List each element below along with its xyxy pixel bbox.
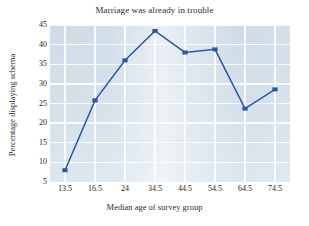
chart-title: Marriage was already in trouble xyxy=(0,5,309,15)
data-point-marker xyxy=(92,98,97,102)
y-axis-label: Percentage displaying schema xyxy=(7,25,17,185)
y-axis-tick-label: 15 xyxy=(25,138,47,147)
data-point-marker xyxy=(152,29,157,33)
data-point-marker xyxy=(62,168,67,172)
y-axis-tick-label: 40 xyxy=(25,40,47,49)
series-markers xyxy=(62,29,277,172)
y-axis-tick-label: 25 xyxy=(25,99,47,108)
y-axis-tick-label: 10 xyxy=(25,157,47,166)
y-axis-tick-label: 35 xyxy=(25,59,47,68)
y-axis-tick-label: 5 xyxy=(25,177,47,186)
y-axis-tick-label: 45 xyxy=(25,20,47,29)
y-axis-tick-label: 20 xyxy=(25,118,47,127)
data-point-marker xyxy=(242,107,247,111)
data-series-line xyxy=(50,25,290,182)
x-axis-label: Median age of survey group xyxy=(0,202,309,212)
data-point-marker xyxy=(182,50,187,54)
data-point-marker xyxy=(272,87,277,91)
data-point-marker xyxy=(122,58,127,62)
plot-area xyxy=(50,25,290,182)
chart-figure: Marriage was already in trouble Percenta… xyxy=(0,0,309,226)
data-point-marker xyxy=(212,47,217,51)
y-axis-tick-label: 30 xyxy=(25,79,47,88)
x-axis-tick-label: 74.5 xyxy=(255,184,295,193)
